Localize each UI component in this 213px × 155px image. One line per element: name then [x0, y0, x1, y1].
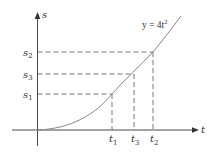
x-tick-t2: t2 — [150, 133, 159, 147]
y-tick-s2: s2 — [23, 47, 33, 61]
guide-lines — [38, 52, 154, 130]
curve-y-4t2 — [37, 16, 181, 130]
curve-label-exponent: 2 — [164, 18, 167, 25]
y-tick-s1-sub: 1 — [28, 94, 32, 102]
x-tick-t2-sub: 2 — [154, 139, 158, 147]
y-axis-arrow-icon — [35, 12, 41, 19]
x-axis-arrow-icon — [192, 127, 199, 133]
x-tick-t1: t1 — [109, 133, 118, 147]
curve-label-text: y = 4t — [142, 20, 165, 30]
x-tick-t3-sub: 3 — [135, 139, 139, 147]
x-axis-label: t — [201, 124, 206, 135]
y-tick-s2-sub: 2 — [28, 52, 32, 60]
x-tick-t1-sub: 1 — [113, 139, 117, 147]
diagram-canvas: s t y = 4t2 s2 s3 s1 t1 t3 t2 — [0, 0, 213, 155]
y-tick-s3-sub: 3 — [28, 74, 32, 82]
x-tick-t3: t3 — [131, 133, 140, 147]
y-axis-label: s — [42, 9, 47, 20]
y-tick-s3: s3 — [23, 69, 33, 83]
y-tick-s1: s1 — [23, 89, 33, 103]
curve-label: y = 4t2 — [142, 18, 168, 30]
